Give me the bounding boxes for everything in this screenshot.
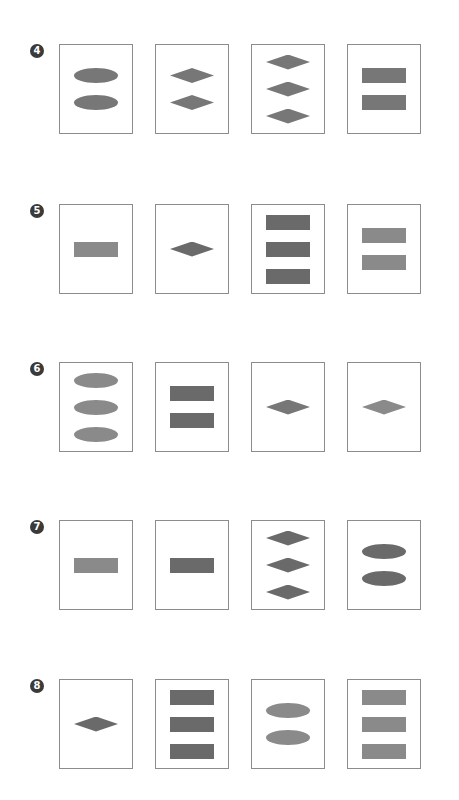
ellipse-shape-icon	[362, 544, 406, 559]
card-2-light-rectangle[interactable]	[347, 204, 421, 294]
card-1-dark-diamond[interactable]	[155, 204, 229, 294]
question-number-badge: 7	[30, 520, 44, 534]
shape-stack	[348, 363, 420, 451]
diamond-shape-icon	[170, 95, 214, 110]
card-2-mid-rectangle[interactable]	[347, 44, 421, 134]
rectangle-shape-icon	[266, 242, 310, 257]
shape-stack	[252, 363, 324, 451]
rectangle-shape-icon	[74, 242, 118, 257]
diamond-shape-icon	[266, 109, 310, 124]
card-2-dark-ellipse[interactable]	[347, 520, 421, 610]
shape-stack	[60, 363, 132, 451]
card-3-dark-rectangle[interactable]	[251, 204, 325, 294]
shape-stack	[60, 521, 132, 609]
question-number-badge: 6	[30, 362, 44, 376]
rectangle-shape-icon	[170, 690, 214, 705]
shape-stack	[252, 205, 324, 293]
card-1-light-rectangle[interactable]	[59, 204, 133, 294]
rectangle-shape-icon	[170, 744, 214, 759]
shape-stack	[348, 205, 420, 293]
card-1-light-rectangle[interactable]	[59, 520, 133, 610]
shape-stack	[60, 680, 132, 768]
diamond-shape-icon	[266, 55, 310, 70]
shape-stack	[252, 680, 324, 768]
ellipse-shape-icon	[74, 68, 118, 83]
card-1-light-diamond[interactable]	[347, 362, 421, 452]
rectangle-shape-icon	[362, 690, 406, 705]
card-3-light-rectangle[interactable]	[347, 679, 421, 769]
rectangle-shape-icon	[362, 255, 406, 270]
diamond-shape-icon	[266, 531, 310, 546]
shape-stack	[156, 521, 228, 609]
card-2-dark-rectangle[interactable]	[155, 362, 229, 452]
rectangle-shape-icon	[170, 717, 214, 732]
ellipse-shape-icon	[74, 95, 118, 110]
shape-stack	[156, 363, 228, 451]
ellipse-shape-icon	[266, 730, 310, 745]
card-1-dark-diamond[interactable]	[59, 679, 133, 769]
diamond-shape-icon	[170, 242, 214, 257]
card-1-dark-rectangle[interactable]	[155, 520, 229, 610]
rectangle-shape-icon	[362, 744, 406, 759]
shape-stack	[156, 680, 228, 768]
rectangle-shape-icon	[74, 558, 118, 573]
shape-stack	[348, 680, 420, 768]
rectangle-shape-icon	[266, 269, 310, 284]
shape-stack	[156, 205, 228, 293]
shape-stack	[348, 521, 420, 609]
card-2-light-ellipse[interactable]	[251, 679, 325, 769]
rectangle-shape-icon	[362, 68, 406, 83]
shape-stack	[60, 45, 132, 133]
card-3-light-ellipse[interactable]	[59, 362, 133, 452]
diamond-shape-icon	[266, 82, 310, 97]
shape-stack	[156, 45, 228, 133]
puzzle-row-5: 5	[0, 204, 459, 296]
ellipse-shape-icon	[266, 703, 310, 718]
diamond-shape-icon	[266, 400, 310, 415]
rectangle-shape-icon	[362, 717, 406, 732]
rectangle-shape-icon	[362, 228, 406, 243]
rectangle-shape-icon	[170, 386, 214, 401]
shape-stack	[60, 205, 132, 293]
question-number-badge: 4	[30, 44, 44, 58]
shape-stack	[348, 45, 420, 133]
diamond-shape-icon	[362, 400, 406, 415]
ellipse-shape-icon	[74, 400, 118, 415]
card-3-dark-rectangle[interactable]	[155, 679, 229, 769]
ellipse-shape-icon	[74, 373, 118, 388]
card-3-mid-diamond[interactable]	[251, 44, 325, 134]
card-2-mid-diamond[interactable]	[155, 44, 229, 134]
puzzle-row-7: 7	[0, 520, 459, 612]
question-number-badge: 5	[30, 204, 44, 218]
puzzle-row-6: 6	[0, 362, 459, 454]
diamond-shape-icon	[266, 558, 310, 573]
shape-stack	[252, 45, 324, 133]
diamond-shape-icon	[266, 585, 310, 600]
puzzle-row-8: 8	[0, 679, 459, 771]
card-3-dark-diamond[interactable]	[251, 520, 325, 610]
rectangle-shape-icon	[170, 558, 214, 573]
diamond-shape-icon	[170, 68, 214, 83]
rectangle-shape-icon	[170, 413, 214, 428]
card-2-mid-ellipse[interactable]	[59, 44, 133, 134]
ellipse-shape-icon	[74, 427, 118, 442]
diamond-shape-icon	[74, 717, 118, 732]
shape-stack	[252, 521, 324, 609]
question-number-badge: 8	[30, 679, 44, 693]
ellipse-shape-icon	[362, 571, 406, 586]
puzzle-row-4: 4	[0, 44, 459, 136]
rectangle-shape-icon	[266, 215, 310, 230]
card-1-mid-diamond[interactable]	[251, 362, 325, 452]
rectangle-shape-icon	[362, 95, 406, 110]
